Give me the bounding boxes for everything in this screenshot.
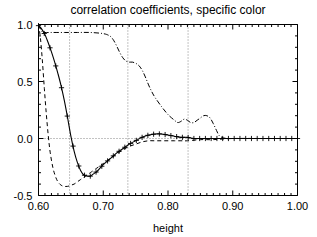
x-axis-title: height	[153, 222, 183, 234]
x-tick-label: 0.80	[157, 200, 178, 212]
x-tick-label: 0.90	[222, 200, 243, 212]
y-tick-label: 0.5	[17, 76, 32, 88]
chart-container: correlation coefficients, specific color…	[0, 0, 317, 237]
x-tick-label: 0.70	[93, 200, 114, 212]
y-tick-label: 0.0	[17, 133, 32, 145]
y-tick-label: -0.5	[14, 190, 33, 202]
y-tick-label: 1.0	[17, 19, 32, 31]
x-tick-label: 1.00	[287, 200, 308, 212]
correlation-coefficients-plot: correlation coefficients, specific color…	[0, 0, 317, 237]
chart-title: correlation coefficients, specific color	[70, 3, 265, 17]
